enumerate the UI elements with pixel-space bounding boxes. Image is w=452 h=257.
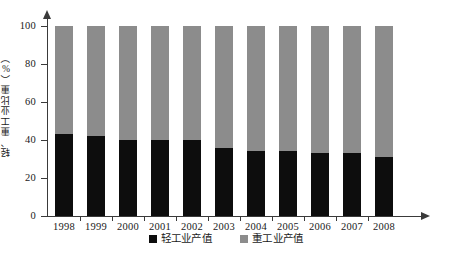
bar-segment-light-industry — [311, 153, 329, 216]
bar-group — [183, 26, 201, 216]
x-axis-tick — [368, 216, 369, 221]
bar-group — [151, 26, 169, 216]
bar-segment-light-industry — [87, 136, 105, 216]
legend-item: 轻工业产值 — [149, 234, 213, 245]
bar-segment-light-industry — [55, 134, 73, 216]
y-axis-tick — [41, 216, 47, 217]
bar-segment-heavy-industry — [183, 26, 201, 140]
bar-segment-light-industry — [279, 151, 297, 216]
bar-segment-light-industry — [247, 151, 265, 216]
bar-segment-heavy-industry — [151, 26, 169, 140]
bar-group — [279, 26, 297, 216]
bar-group — [119, 26, 137, 216]
x-axis-tick — [208, 216, 209, 221]
x-axis-arrowhead — [421, 212, 430, 220]
legend-item: 重工业产值 — [240, 234, 304, 245]
x-axis-tick — [240, 216, 241, 221]
bar-group — [55, 26, 73, 216]
chart-legend: 轻工业产值重工业产值 — [0, 234, 452, 245]
bar-segment-light-industry — [215, 148, 233, 216]
bar-segment-light-industry — [119, 140, 137, 216]
plot-area — [48, 26, 400, 216]
bar-group — [343, 26, 361, 216]
bar-segment-heavy-industry — [247, 26, 265, 151]
x-axis-tick — [304, 216, 305, 221]
legend-swatch-icon — [240, 235, 248, 243]
x-axis-tick — [176, 216, 177, 221]
legend-item-label: 轻工业产值 — [161, 234, 213, 245]
x-axis-tick — [336, 216, 337, 221]
bar-segment-light-industry — [151, 140, 169, 216]
y-axis-tick — [41, 64, 47, 65]
bar-segment-heavy-industry — [215, 26, 233, 148]
bar-group — [215, 26, 233, 216]
y-axis-tick — [41, 102, 47, 103]
y-axis-tick — [41, 178, 47, 179]
y-axis-tick-label: 80 — [10, 59, 36, 70]
y-axis-tick-label: 100 — [10, 21, 36, 32]
bar-segment-heavy-industry — [343, 26, 361, 153]
y-axis-arrowhead — [43, 10, 51, 19]
bar-segment-light-industry — [375, 157, 393, 216]
x-axis-tick — [144, 216, 145, 221]
bar-segment-heavy-industry — [375, 26, 393, 157]
bar-segment-light-industry — [343, 153, 361, 216]
x-axis-tick — [80, 216, 81, 221]
bar-group — [247, 26, 265, 216]
legend-swatch-icon — [149, 235, 157, 243]
bar-group — [375, 26, 393, 216]
bar-group — [311, 26, 329, 216]
bar-segment-heavy-industry — [87, 26, 105, 136]
bar-segment-heavy-industry — [119, 26, 137, 140]
bar-segment-heavy-industry — [55, 26, 73, 134]
x-axis-tick-label: 2008 — [364, 222, 404, 233]
x-axis-tick — [272, 216, 273, 221]
stacked-bar-chart-figure: 轻、重工业比重（%） 020406080100 1998199920002001… — [0, 0, 452, 257]
bar-segment-heavy-industry — [279, 26, 297, 151]
y-axis-tick-label: 0 — [10, 211, 36, 222]
y-axis-tick — [41, 26, 47, 27]
x-axis-tick — [112, 216, 113, 221]
bar-group — [87, 26, 105, 216]
bar-segment-light-industry — [183, 140, 201, 216]
y-axis-tick — [41, 140, 47, 141]
y-axis-tick-label: 40 — [10, 135, 36, 146]
bar-segment-heavy-industry — [311, 26, 329, 153]
legend-item-label: 重工业产值 — [252, 234, 304, 245]
x-axis-line — [47, 216, 422, 217]
y-axis-tick-label: 60 — [10, 97, 36, 108]
y-axis-tick-label: 20 — [10, 173, 36, 184]
